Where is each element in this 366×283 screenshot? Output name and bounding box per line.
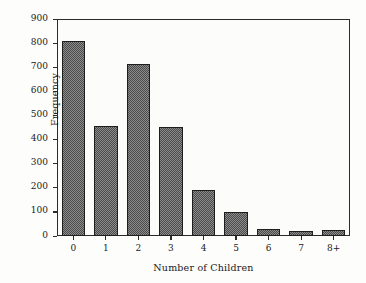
y-axis-tick-label: 700 [31,61,48,71]
bar [127,64,150,236]
bar [192,190,215,236]
y-axis-tick-label: 600 [31,85,48,95]
x-axis-tick-label: 6 [253,243,285,253]
y-axis-tick-label: 500 [31,109,48,119]
bars-layer [57,19,350,236]
x-axis-tick-label: 8+ [318,243,350,253]
x-axis-tick-label: 0 [57,243,89,253]
y-axis-tick-label: 300 [31,157,48,167]
x-axis-tick-mark [203,236,204,240]
x-axis-title: Number of Children [57,262,350,273]
x-axis-tick-label: 1 [90,243,122,253]
bar [257,229,280,236]
x-axis-tick-mark [301,236,302,240]
y-axis-tick-label: 900 [31,13,48,23]
y-axis-tick-label: 400 [31,133,48,143]
x-axis-tick-mark [105,236,106,240]
x-axis-tick-label: 3 [155,243,187,253]
x-axis-tick-label: 7 [285,243,317,253]
x-axis-tick-label: 2 [122,243,154,253]
x-axis-tick-label: 5 [220,243,252,253]
y-axis-tick-label: 200 [31,181,48,191]
bar [62,41,85,236]
bar [94,126,117,236]
bar [224,212,247,236]
x-axis-tick-mark [73,236,74,240]
x-axis-tick-mark [268,236,269,240]
y-axis-tick-label: 100 [31,205,48,215]
y-axis-tick-label: 800 [31,37,48,47]
x-axis-tick-label: 4 [188,243,220,253]
bar [159,127,182,236]
bar-chart: Frequency 0100200300400500600700800900 0… [0,0,366,283]
x-axis-tick-mark [235,236,236,240]
x-axis-tick-mark [138,236,139,240]
x-axis-tick-mark [170,236,171,240]
y-axis-tick-label: 0 [42,230,48,240]
x-axis-tick-mark [333,236,334,240]
